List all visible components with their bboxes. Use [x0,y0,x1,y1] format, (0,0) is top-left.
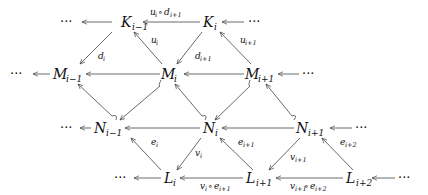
diagram-canvas: K i−1 K i M i−1 M i M i+1 N i−1 N i N i+… [0,0,428,195]
svg-text:i: i [103,55,105,63]
label-v-i-plus-1-comp-e-i-plus-2: v i+1 ∘ e i+2 [290,181,327,193]
svg-text:∘: ∘ [158,7,162,17]
ellipsis-L-left: ··· [114,170,126,185]
edge-N-ip1-to-M-ip1 [266,84,296,120]
label-v-i: v i [195,148,202,160]
node-L-i-plus-2: L i+2 [345,170,372,188]
label-d-i-plus-1: d i+1 [195,51,212,63]
ellipsis-K-right: ··· [248,14,260,29]
node-M-i: M i [160,66,177,84]
svg-text:∘: ∘ [304,181,308,191]
svg-text:i+1: i+1 [258,74,274,84]
svg-text:i+2: i+2 [356,178,372,188]
label-u-i-plus-1: u i+1 [240,35,257,47]
label-u-i-comp-d-i-plus-1: u i ∘ d i+1 [150,7,182,19]
svg-text:∘: ∘ [208,181,212,191]
svg-text:i+2: i+2 [315,185,327,193]
ellipsis-M-left: ··· [10,66,22,81]
edge-N-i-to-M-i [175,84,206,120]
edge-K-im1-to-M-im1 [80,32,112,64]
svg-text:i: i [173,178,176,188]
svg-text:i−1: i−1 [66,74,82,84]
svg-text:i: i [215,128,218,138]
ellipsis-N-left: ··· [60,120,72,135]
ellipsis-K-left: ··· [60,14,72,29]
svg-text:N: N [295,120,309,136]
svg-text:i: i [156,141,158,149]
svg-text:i+1: i+1 [170,11,182,19]
svg-text:i: i [156,39,158,47]
svg-text:i+1: i+1 [245,39,257,47]
label-v-i-comp-e-i-plus-1: v i ∘ e i+1 [200,181,231,193]
edge-M-ip1-to-N-i [215,80,250,120]
ellipsis-L-right: ··· [398,170,410,185]
svg-text:i: i [205,185,207,193]
svg-text:L: L [245,170,255,186]
svg-text:i: i [214,22,217,32]
node-N-i-plus-1: N i+1 [295,120,324,138]
svg-text:N: N [202,120,216,136]
svg-text:i: i [155,11,157,19]
svg-text:i+1: i+1 [256,178,272,188]
ellipsis-M-right: ··· [302,66,314,81]
node-L-i: L i [163,170,176,188]
svg-text:i: i [200,152,202,160]
node-N-i: N i [202,120,218,138]
edge-M-i-to-K-im1 [134,32,162,64]
svg-text:L: L [345,170,355,186]
svg-text:i+1: i+1 [308,128,324,138]
label-e-i-plus-1: e i+1 [238,137,255,149]
node-N-i-minus-1: N i−1 [93,120,122,138]
node-M-i-plus-1: M i+1 [244,66,274,84]
edge-M-ip1-to-K-i [220,32,251,64]
node-K-i-minus-1: K i−1 [120,14,148,32]
node-L-i-plus-1: L i+1 [245,170,272,188]
label-d-i: d i [98,51,105,63]
svg-text:i−1: i−1 [106,128,122,138]
label-e-i: e i [151,137,158,149]
edge-M-i-to-N-im1 [120,80,161,120]
svg-text:i−1: i−1 [132,22,148,32]
svg-text:i: i [174,74,177,84]
label-e-i-plus-2: e i+2 [340,137,357,149]
svg-text:i+1: i+1 [243,141,255,149]
svg-text:N: N [93,120,107,136]
label-u-i: u i [151,35,158,47]
svg-text:i+1: i+1 [219,185,231,193]
svg-text:i+1: i+1 [200,55,212,63]
edge-N-im1-to-M-im1 [78,84,117,120]
svg-text:L: L [163,170,173,186]
label-v-i-plus-1: v i+1 [290,152,307,164]
node-M-i-minus-1: M i−1 [52,66,82,84]
svg-text:i+2: i+2 [345,141,357,149]
node-K-i: K i [202,14,217,32]
edge-N-ip1-to-L-ip1 [269,138,300,170]
ellipsis-N-right: ··· [355,120,367,135]
svg-text:i+1: i+1 [295,156,307,164]
